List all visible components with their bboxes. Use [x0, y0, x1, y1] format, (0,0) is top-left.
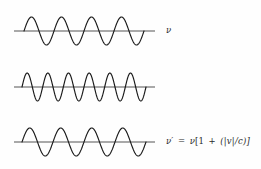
wave-row-approaching: ν′ = ν[1 + (|v|/c)]: [0, 55, 261, 111]
doppler-effect-figure: ν ν′ = ν[1 + (|v|/c)] ν′ = ν[1 − (|v|/c)…: [0, 0, 261, 169]
waveform-source: [8, 0, 168, 55]
wave-row-source: ν: [0, 0, 261, 55]
formula-source-frequency: ν: [166, 25, 171, 35]
waveform-receding: [8, 111, 168, 169]
wave-row-receding: ν′ = ν[1 − (|v|/c)]: [0, 111, 261, 169]
formula-source-nu: ν: [166, 25, 171, 35]
waveform-approaching: [8, 55, 168, 111]
